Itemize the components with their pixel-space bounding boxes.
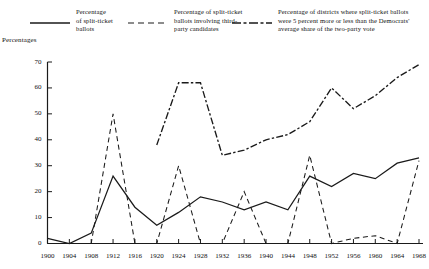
y-tick-label: 20	[24, 187, 42, 195]
y-tick-label: 70	[24, 58, 42, 66]
chart-plot-area	[0, 0, 429, 269]
y-tick-label: 50	[24, 109, 42, 117]
x-tick-label: 1968	[406, 252, 429, 260]
chart-figure: Percentage of split-ticket ballots Perce…	[0, 0, 429, 269]
chart-svg	[0, 0, 429, 269]
series-line-0	[48, 158, 420, 244]
series-line-1	[48, 114, 420, 244]
y-tick-label: 30	[24, 161, 42, 169]
y-tick-label: 60	[24, 83, 42, 91]
y-tick-label: 10	[24, 213, 42, 221]
series-line-2	[157, 65, 419, 156]
y-tick-label: 0	[24, 239, 42, 247]
y-tick-label: 40	[24, 135, 42, 143]
